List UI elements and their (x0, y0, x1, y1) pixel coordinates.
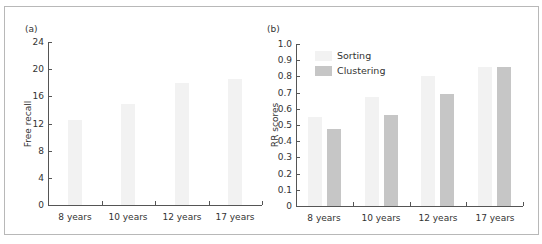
panel-b-bar-clustering (384, 115, 398, 206)
panel-b-y-tick-label: 0.1 (268, 185, 292, 195)
panel-b-bar-clustering (440, 94, 454, 206)
panel-b-y-tick (296, 157, 300, 158)
panel-a-x-tick-label: 17 years (207, 212, 263, 222)
panel-a-y-tick-label: 16 (20, 91, 44, 101)
panel-b-y-tick (296, 109, 300, 110)
panel-b-y-tick-label: 0.6 (268, 104, 292, 114)
panel-b-y-tick (296, 44, 300, 45)
panel-b-y-tick-label: 0.4 (268, 136, 292, 146)
panel-b-y-tick (296, 76, 300, 77)
panel-b-y-tick-label: 0.3 (268, 152, 292, 162)
panel-a-y-tick-label: 20 (20, 64, 44, 74)
panel-a-y-tick (48, 205, 52, 206)
panel-a-y-tick (48, 151, 52, 152)
panel-b-label: (b) (267, 24, 280, 34)
panel-a-x-tick-label: 12 years (154, 212, 210, 222)
panel-a-x-tick (262, 201, 263, 205)
panel-b-y-tick-label: 0.8 (268, 71, 292, 81)
panel-b-x-tick (353, 202, 354, 206)
panel-b-x-tick (466, 202, 467, 206)
panel-b-bar-sorting (421, 76, 435, 206)
panel-b-bar-sorting (365, 97, 379, 206)
legend-label-sorting: Sorting (337, 51, 371, 61)
panel-a-bar (68, 120, 82, 205)
panel-a-y-tick-label: 4 (20, 173, 44, 183)
panel-a-x-tick (209, 201, 210, 205)
panel-b-x-tick-label: 12 years (410, 213, 466, 223)
panel-a-y-tick-label: 24 (20, 37, 44, 47)
panel-b-x-tick-label: 8 years (296, 213, 352, 223)
panel-b-y-tick (296, 174, 300, 175)
panel-b-y-tick-label: 0.9 (268, 55, 292, 65)
panel-b-y-tick (296, 206, 300, 207)
panel-b-y-tick-label: 0 (268, 201, 292, 211)
panel-a-y-tick (48, 69, 52, 70)
legend-swatch-sorting (315, 51, 332, 61)
panel-a-x-tick (155, 201, 156, 205)
panel-b-bar-clustering (327, 129, 341, 206)
panel-b-x-tick (410, 202, 411, 206)
panel-b-y-tick-label: 0.2 (268, 169, 292, 179)
panel-b-y-tick (296, 93, 300, 94)
panel-a-x-tick-label: 10 years (100, 212, 156, 222)
panel-a-y-tick (48, 42, 52, 43)
panel-a-y-tick (48, 178, 52, 179)
panel-a-label: (a) (25, 24, 38, 34)
panel-a-y-tick-label: 8 (20, 146, 44, 156)
panel-b-y-tick-label: 0.5 (268, 120, 292, 130)
panel-b-bar-sorting (478, 67, 492, 206)
panel-a-bar (228, 79, 242, 205)
panel-b-x-tick (523, 202, 524, 206)
panel-a-x-axis (48, 205, 262, 206)
panel-b-y-tick-label: 0.7 (268, 88, 292, 98)
panel-b-x-axis (296, 206, 523, 207)
panel-b-x-tick-label: 17 years (467, 213, 523, 223)
panel-b-bar-clustering (497, 67, 511, 206)
panel-a-y-tick (48, 96, 52, 97)
panel-b-y-tick (296, 190, 300, 191)
legend-label-clustering: Clustering (337, 66, 385, 76)
panel-b-x-tick-label: 10 years (353, 213, 409, 223)
panel-b-y-tick (296, 60, 300, 61)
panel-a-y-tick (48, 124, 52, 125)
panel-a-bar (175, 83, 189, 205)
legend-swatch-clustering (315, 66, 332, 76)
panel-a-x-tick-label: 8 years (47, 212, 103, 222)
panel-b-y-tick (296, 125, 300, 126)
panel-b-y-tick-label: 1.0 (268, 39, 292, 49)
panel-a-x-tick (102, 201, 103, 205)
panel-b-y-tick (296, 141, 300, 142)
panel-a-y-tick-label: 12 (20, 119, 44, 129)
panel-b-bar-sorting (308, 117, 322, 206)
panel-a-bar (121, 104, 135, 205)
panel-a-y-tick-label: 0 (20, 200, 44, 210)
